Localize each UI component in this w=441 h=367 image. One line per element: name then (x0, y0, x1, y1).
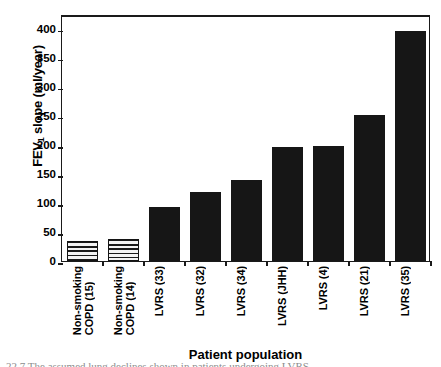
figure-caption: 22.7 The assumed lung declines shown in … (6, 360, 441, 367)
bar[interactable] (67, 241, 99, 261)
bar[interactable] (354, 115, 386, 261)
y-axis-tick-label: 200 (22, 140, 56, 152)
y-axis-tick (58, 205, 63, 207)
y-axis-tick (58, 118, 63, 120)
bar[interactable] (395, 31, 427, 261)
y-axis-tick-label: 250 (22, 111, 56, 123)
x-axis-tick-label: Non-smoking COPD (14) (112, 266, 136, 335)
y-axis-tick-label: 300 (22, 82, 56, 94)
x-axis-tick-label: Non-smoking COPD (15) (71, 266, 95, 335)
x-axis-tick-label: LVRS (34) (235, 266, 247, 316)
x-axis-tick-label: LVRS (33) (153, 266, 165, 316)
bar[interactable] (108, 239, 140, 261)
x-axis-tick-label: LVRS (35) (399, 266, 411, 316)
plot-inner (62, 17, 429, 261)
figure-container: FEV1 slope (ml/year) 0501001502002503003… (0, 0, 441, 367)
bar[interactable] (313, 146, 345, 261)
plot-area (61, 15, 430, 262)
y-axis-tick (58, 234, 63, 236)
y-axis-tick-label: 50 (22, 227, 56, 239)
x-axis-tick-label: LVRS (4) (317, 266, 329, 310)
y-axis-tick-label: 150 (22, 169, 56, 181)
y-axis-tick (58, 263, 63, 265)
y-axis-tick (58, 31, 63, 33)
y-axis-tick-labels: 050100150200250300350400 (22, 0, 56, 367)
y-axis-tick-label: 100 (22, 198, 56, 210)
y-axis-tick (58, 60, 63, 62)
x-axis-tick-label: LVRS (32) (194, 266, 206, 316)
x-axis-tick-label: LVRS (JHH) (276, 266, 288, 326)
y-axis-tick (58, 89, 63, 91)
bar[interactable] (231, 180, 263, 261)
y-axis-tick-label: 0 (22, 256, 56, 268)
y-axis-tick (58, 147, 63, 149)
x-axis-tick-labels: Non-smoking COPD (15)Non-smoking COPD (1… (61, 266, 430, 352)
bar[interactable] (149, 207, 181, 261)
x-axis-tick-label: LVRS (21) (358, 266, 370, 316)
bar[interactable] (272, 147, 304, 261)
x-axis-tick (430, 261, 432, 266)
bar[interactable] (190, 192, 222, 261)
y-axis-tick-label: 400 (22, 24, 56, 36)
y-axis-tick (58, 176, 63, 178)
y-axis-tick-label: 350 (22, 53, 56, 65)
